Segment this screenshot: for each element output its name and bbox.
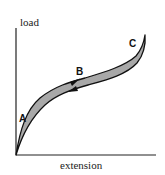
hysteresis-diagram: load extension A B C [0, 0, 165, 175]
y-axis-label: load [20, 16, 39, 28]
x-axis-label: extension [60, 159, 103, 171]
hysteresis-loop-area [16, 35, 145, 155]
point-label-b: B [76, 66, 83, 77]
point-label-a: A [19, 113, 26, 124]
point-label-c: C [129, 38, 136, 49]
